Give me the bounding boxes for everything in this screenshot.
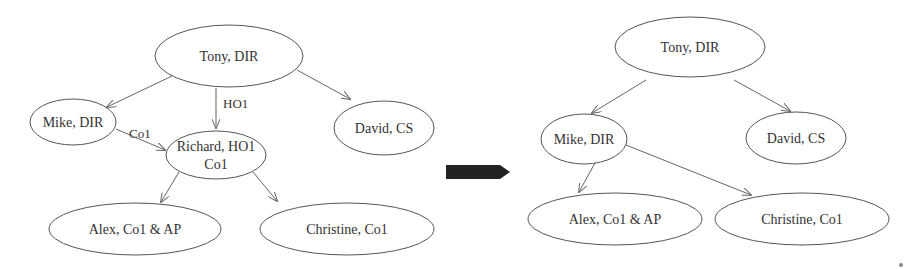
node-label-secondary: Co1	[204, 157, 227, 172]
node-alex: Alex, Co1 & AP	[528, 193, 702, 245]
node-david: David, CS	[746, 112, 846, 164]
node-label: Mike, DIR	[554, 132, 615, 147]
node-label: David, CS	[767, 131, 825, 146]
node-label: Tony, DIR	[200, 49, 259, 64]
transition-arrow-icon	[446, 165, 510, 179]
node-label: Richard, HO1	[177, 139, 256, 154]
node-label: Mike, DIR	[43, 115, 104, 130]
before-diagram: HO1 Co1 Tony, DIR Mike, DIR David, CS Ri…	[30, 25, 434, 255]
edge-tony-david	[297, 70, 350, 99]
edge-mike-alex	[579, 163, 595, 192]
node-christine: Christine, Co1	[715, 193, 889, 245]
artifact-dot	[899, 263, 903, 267]
node-mike: Mike, DIR	[30, 99, 116, 145]
edge-tony-mike	[592, 80, 646, 113]
edge-tony-david	[734, 80, 790, 111]
node-label: Alex, Co1 & AP	[89, 222, 182, 237]
node-david: David, CS	[334, 101, 434, 155]
node-christine: Christine, Co1	[260, 203, 434, 255]
node-tony: Tony, DIR	[615, 17, 765, 77]
edge-label-ho1: HO1	[223, 96, 248, 111]
after-diagram: Tony, DIR Mike, DIR David, CS Alex, Co1 …	[528, 17, 889, 245]
node-label: Christine, Co1	[761, 212, 843, 227]
edge-label-co1: Co1	[129, 126, 151, 141]
org-chart-transformation: HO1 Co1 Tony, DIR Mike, DIR David, CS Ri…	[0, 0, 919, 269]
node-mike: Mike, DIR	[541, 114, 627, 164]
node-alex: Alex, Co1 & AP	[49, 203, 221, 255]
node-richard: Richard, HO1 Co1	[166, 131, 266, 179]
edge-mike-christine	[626, 145, 751, 195]
node-label: Alex, Co1 & AP	[569, 212, 662, 227]
node-label: Christine, Co1	[306, 222, 388, 237]
node-label: Tony, DIR	[661, 40, 720, 55]
node-tony: Tony, DIR	[155, 25, 303, 87]
edge-richard-christine	[253, 172, 277, 201]
edge-tony-mike	[107, 76, 172, 107]
node-label: David, CS	[355, 121, 413, 136]
edge-richard-alex	[161, 172, 179, 202]
